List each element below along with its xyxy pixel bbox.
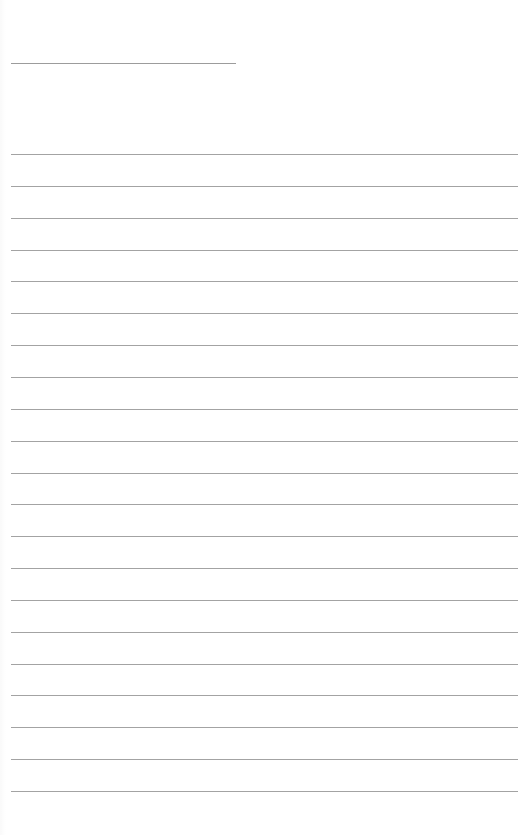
ruled-line	[11, 281, 518, 282]
ruled-line	[11, 218, 518, 219]
ruled-line	[11, 504, 518, 505]
ruled-line	[11, 600, 518, 601]
ruled-line	[11, 441, 518, 442]
ruled-line	[11, 664, 518, 665]
ruled-line	[11, 791, 518, 792]
ruled-line	[11, 313, 518, 314]
ruled-line	[11, 568, 518, 569]
ruled-lines-group	[0, 0, 530, 835]
ruled-line	[11, 695, 518, 696]
ruled-line	[11, 409, 518, 410]
ruled-line	[11, 727, 518, 728]
ruled-line	[11, 250, 518, 251]
ruled-line	[11, 536, 518, 537]
ruled-line	[11, 345, 518, 346]
ruled-line	[11, 186, 518, 187]
ruled-line	[11, 154, 518, 155]
ruled-line	[11, 632, 518, 633]
lined-paper-page	[0, 0, 530, 835]
ruled-line	[11, 473, 518, 474]
ruled-line	[11, 759, 518, 760]
ruled-line	[11, 377, 518, 378]
